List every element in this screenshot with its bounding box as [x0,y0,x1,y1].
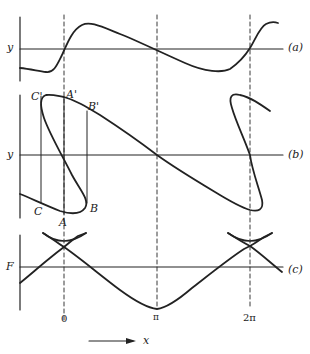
point-label-c-prime: C' [31,91,42,102]
x-tick-pi: π [153,313,159,322]
panel-c-branch-right [250,233,272,246]
panel-a-curve [20,22,278,72]
panel-c-label: (c) [288,264,303,275]
x-tick-2pi: 2π [243,313,256,323]
panel-c-branch-main [43,233,250,309]
point-label-c: C [34,206,42,217]
x-axis-label: x [143,335,149,346]
panel-b-axis-label: y [7,149,13,160]
panel-b-curve [20,94,270,213]
point-label-b: B [90,203,98,214]
panel-a-label: (a) [288,42,303,53]
panel-c-axis-label: F [6,261,14,272]
x-arrow-head [126,338,136,344]
point-label-a-prime: A' [66,89,77,100]
x-tick-0: 0 [61,314,67,324]
figure-canvas [0,0,310,354]
point-label-b-prime: B' [88,101,99,112]
panel-c-branch-right-down [228,233,282,272]
panel-b-label: (b) [288,149,304,160]
panel-a-axis-label: y [7,42,13,53]
point-label-a: A [59,217,67,228]
